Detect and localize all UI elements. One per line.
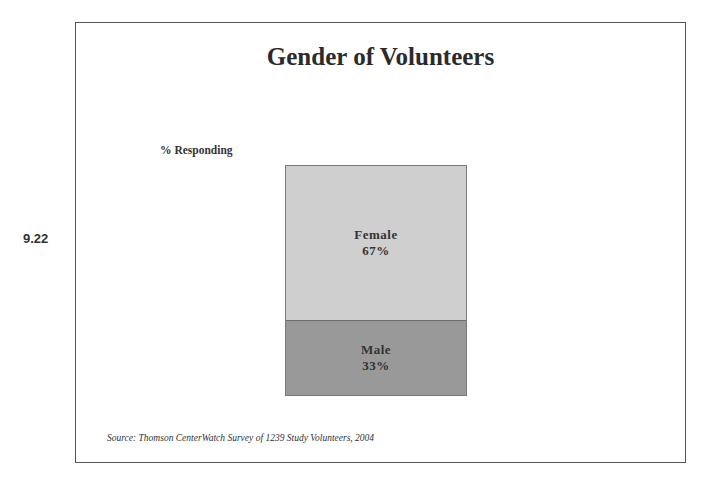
page-number: 9.22	[23, 231, 48, 246]
bar-segment-male: Male 33%	[286, 321, 466, 395]
chart-title: Gender of Volunteers	[76, 43, 685, 71]
source-note: Source: Thomson CenterWatch Survey of 12…	[107, 433, 374, 443]
chart-frame: Gender of Volunteers % Responding Female…	[75, 22, 686, 463]
segment-label-female: Female	[354, 227, 397, 243]
bar-segment-female: Female 67%	[286, 166, 466, 321]
y-axis-label: % Responding	[160, 144, 233, 156]
segment-value-male: 33%	[362, 358, 390, 374]
segment-value-female: 67%	[362, 243, 390, 259]
segment-label-male: Male	[361, 342, 391, 358]
stacked-bar: Female 67% Male 33%	[285, 165, 467, 396]
